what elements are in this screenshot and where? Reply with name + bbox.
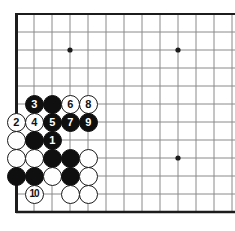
stone-move-number: 4	[31, 116, 37, 127]
stone-black-move-9: 9	[79, 113, 98, 132]
stone-white-move-2: 2	[7, 113, 26, 132]
stone-white-move-6: 6	[61, 95, 80, 114]
stone-black	[25, 131, 44, 150]
stone-white	[25, 149, 44, 168]
stone-black	[25, 167, 44, 186]
stone-black-move-1: 1	[43, 131, 62, 150]
stone-black	[61, 167, 80, 186]
star-point	[175, 47, 180, 52]
stone-white	[61, 185, 80, 204]
stone-move-number: 1	[49, 134, 55, 145]
stone-white-move-8: 8	[79, 95, 98, 114]
stone-white-move-10: 10	[25, 185, 44, 204]
stone-black	[43, 149, 62, 168]
stone-move-number: 8	[85, 98, 91, 109]
stone-white	[79, 149, 98, 168]
stone-white	[7, 149, 26, 168]
stone-black	[43, 95, 62, 114]
stone-black-move-7: 7	[61, 113, 80, 132]
stone-white	[79, 167, 98, 186]
stone-move-number: 6	[67, 98, 73, 109]
stone-white	[79, 185, 98, 204]
stone-black	[61, 149, 80, 168]
stone-white	[43, 167, 62, 186]
stone-move-number: 5	[49, 116, 55, 127]
star-point	[67, 47, 72, 52]
stone-white-move-4: 4	[25, 113, 44, 132]
star-point	[175, 155, 180, 160]
stone-move-number: 9	[85, 116, 91, 127]
stone-move-number: 2	[13, 116, 19, 127]
stone-move-number: 3	[31, 98, 37, 109]
stone-white	[7, 131, 26, 150]
go-board-diagram: 36824579110	[0, 0, 235, 231]
stone-black-move-5: 5	[43, 113, 62, 132]
stone-black	[7, 167, 26, 186]
stone-move-number: 10	[29, 189, 38, 199]
stone-black-move-3: 3	[25, 95, 44, 114]
stone-move-number: 7	[67, 116, 73, 127]
